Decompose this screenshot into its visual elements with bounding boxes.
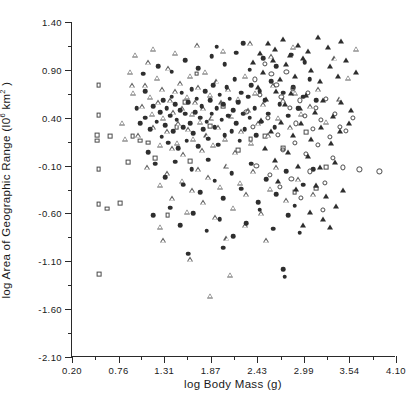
data-point-open-square bbox=[126, 159, 131, 164]
data-point-filled-triangle bbox=[282, 102, 288, 107]
y-axis-tick-minor bbox=[68, 237, 72, 238]
x-axis-tick-label: 1.31 bbox=[154, 365, 174, 376]
data-point-open-triangle bbox=[189, 188, 195, 193]
y-axis-tick-minor bbox=[68, 142, 72, 143]
y-axis-tick-label: 0.90 bbox=[42, 64, 62, 75]
data-point-open-triangle bbox=[353, 46, 359, 51]
data-point-filled-triangle bbox=[297, 106, 303, 111]
y-axis-tick-major bbox=[65, 22, 72, 23]
data-point-filled-circle bbox=[135, 106, 140, 111]
y-axis-tick-major bbox=[65, 357, 72, 358]
y-axis-tick-minor bbox=[68, 190, 72, 191]
data-point-filled-circle bbox=[179, 91, 184, 96]
data-point-open-square bbox=[304, 130, 309, 135]
x-axis-tick-minor bbox=[95, 356, 96, 360]
data-point-filled-circle bbox=[209, 54, 214, 59]
data-point-filled-triangle bbox=[290, 132, 296, 137]
data-point-open-square bbox=[108, 133, 113, 138]
data-point-filled-circle bbox=[241, 41, 246, 46]
data-point-open-triangle bbox=[119, 120, 125, 125]
y-axis-title-tail: km bbox=[0, 94, 12, 113]
data-point-open-square bbox=[194, 71, 199, 76]
data-point-filled-triangle bbox=[275, 178, 281, 183]
x-axis-tick-major bbox=[304, 356, 305, 363]
data-point-open-triangle bbox=[315, 87, 321, 92]
data-point-filled-triangle bbox=[300, 56, 306, 61]
data-point-filled-circle bbox=[297, 230, 302, 235]
y-axis-tick-label: -0.10 bbox=[38, 160, 62, 171]
data-point-open-triangle bbox=[169, 146, 175, 151]
data-point-open-circle bbox=[315, 142, 320, 147]
data-point-filled-circle bbox=[151, 104, 156, 109]
data-point-open-square bbox=[324, 165, 329, 170]
data-point-filled-circle bbox=[247, 115, 252, 120]
data-point-filled-circle bbox=[233, 77, 238, 82]
data-point-open-triangle bbox=[172, 50, 178, 55]
data-point-filled-circle bbox=[221, 102, 226, 107]
data-point-open-square bbox=[95, 133, 100, 138]
data-point-open-triangle bbox=[145, 60, 151, 65]
data-point-filled-circle bbox=[173, 102, 178, 107]
data-point-open-triangle bbox=[177, 81, 183, 86]
y-axis-tick-minor bbox=[68, 94, 72, 95]
data-point-filled-circle bbox=[191, 131, 196, 136]
y-axis-tick-label: 0.40 bbox=[42, 112, 62, 123]
data-point-open-triangle bbox=[263, 238, 269, 243]
x-axis-tick-label: 2.99 bbox=[294, 365, 314, 376]
data-point-open-triangle bbox=[205, 175, 211, 180]
data-point-filled-circle bbox=[284, 169, 289, 174]
data-point-open-triangle bbox=[130, 90, 136, 95]
data-point-filled-circle bbox=[189, 167, 194, 172]
data-point-filled-triangle bbox=[287, 52, 293, 57]
data-point-filled-triangle bbox=[250, 60, 256, 65]
data-point-filled-circle bbox=[246, 94, 251, 99]
data-point-open-triangle bbox=[122, 136, 128, 141]
data-point-filled-circle bbox=[169, 94, 174, 99]
data-point-filled-circle bbox=[226, 114, 231, 119]
data-point-filled-triangle bbox=[337, 129, 343, 134]
data-point-filled-triangle bbox=[305, 48, 311, 53]
data-point-open-triangle bbox=[273, 165, 279, 170]
data-point-filled-triangle bbox=[265, 41, 271, 46]
x-axis-tick-major bbox=[257, 356, 258, 363]
data-point-open-triangle bbox=[169, 196, 175, 201]
data-point-filled-triangle bbox=[278, 119, 284, 124]
data-point-open-circle bbox=[357, 167, 362, 172]
data-point-filled-circle bbox=[184, 138, 189, 143]
data-point-open-triangle bbox=[160, 238, 166, 243]
data-point-open-triangle bbox=[180, 152, 186, 157]
plot-data-area bbox=[72, 22, 395, 356]
data-point-filled-triangle bbox=[307, 209, 313, 214]
data-point-open-circle bbox=[322, 180, 327, 185]
data-point-filled-circle bbox=[156, 64, 161, 69]
data-point-open-square bbox=[96, 167, 101, 172]
data-point-filled-circle bbox=[239, 91, 244, 96]
x-axis-tick-minor bbox=[141, 356, 142, 360]
data-point-filled-circle bbox=[243, 127, 248, 132]
data-point-filled-triangle bbox=[348, 108, 354, 113]
data-point-open-square bbox=[96, 112, 101, 117]
data-point-open-triangle bbox=[220, 48, 226, 53]
data-point-filled-circle bbox=[186, 100, 191, 105]
data-point-open-triangle bbox=[247, 41, 253, 46]
data-point-open-triangle bbox=[150, 46, 156, 51]
data-point-open-triangle bbox=[232, 150, 238, 155]
data-point-filled-circle bbox=[236, 100, 241, 105]
data-point-open-circle bbox=[320, 207, 325, 212]
data-point-filled-circle bbox=[168, 205, 173, 210]
data-point-filled-triangle bbox=[268, 129, 274, 134]
data-point-open-triangle bbox=[237, 180, 243, 185]
data-point-filled-triangle bbox=[327, 224, 333, 229]
y-axis-title-exp1: 6 bbox=[0, 113, 7, 117]
data-point-filled-circle bbox=[213, 179, 218, 184]
data-point-open-circle bbox=[292, 140, 297, 145]
data-point-filled-circle bbox=[143, 115, 148, 120]
data-point-open-square bbox=[96, 201, 101, 206]
data-point-open-triangle bbox=[345, 75, 351, 80]
data-point-filled-triangle bbox=[318, 125, 324, 130]
data-point-filled-circle bbox=[204, 119, 209, 124]
data-point-filled-circle bbox=[176, 146, 181, 151]
data-point-open-triangle bbox=[207, 293, 213, 298]
data-point-open-circle bbox=[244, 109, 249, 114]
data-point-open-square bbox=[104, 206, 109, 211]
